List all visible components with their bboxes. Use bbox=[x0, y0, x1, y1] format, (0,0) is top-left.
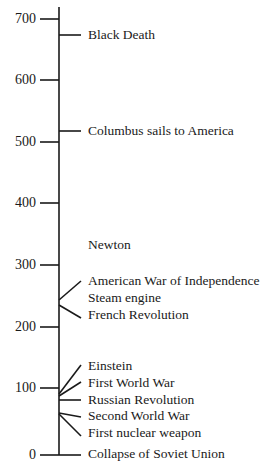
event-american-war-of-independence: American War of Independence bbox=[88, 274, 259, 288]
event-second-world-war: Second World War bbox=[88, 409, 190, 423]
marker-first-nuclear-weapon bbox=[59, 414, 81, 436]
tick-label-600: 600 bbox=[0, 73, 36, 87]
marker-french-revolution bbox=[59, 305, 81, 318]
event-einstein: Einstein bbox=[88, 359, 132, 373]
tick-label-0: 0 bbox=[0, 448, 36, 462]
tick-label-400: 400 bbox=[0, 196, 36, 210]
tick-label-300: 300 bbox=[0, 258, 36, 272]
tick-label-700: 700 bbox=[0, 12, 36, 26]
event-first-world-war: First World War bbox=[88, 376, 175, 390]
tick-label-100: 100 bbox=[0, 381, 36, 395]
tick-label-200: 200 bbox=[0, 320, 36, 334]
event-french-revolution: French Revolution bbox=[88, 308, 189, 322]
event-russian-revolution: Russian Revolution bbox=[88, 393, 194, 407]
timeline-diagram: 700 600 500 400 300 200 100 0 Black Deat… bbox=[0, 0, 279, 472]
event-newton: Newton bbox=[88, 238, 131, 252]
event-black-death: Black Death bbox=[88, 28, 155, 42]
marker-american-war bbox=[59, 281, 81, 300]
event-collapse-of-soviet-union: Collapse of Soviet Union bbox=[88, 447, 225, 461]
event-columbus: Columbus sails to America bbox=[88, 124, 234, 138]
event-steam-engine: Steam engine bbox=[88, 291, 161, 305]
event-first-nuclear-weapon: First nuclear weapon bbox=[88, 426, 201, 440]
tick-label-500: 500 bbox=[0, 135, 36, 149]
